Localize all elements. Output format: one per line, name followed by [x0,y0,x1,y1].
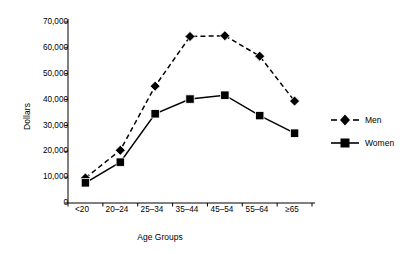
data-point-women [81,179,89,187]
legend-key-men-diamond-icon [330,113,360,127]
data-point-men [150,81,160,91]
series-line-women [85,95,294,183]
axis-lines [68,19,315,203]
data-point-women [116,158,124,166]
data-point-women [256,111,264,119]
data-point-men [115,145,125,155]
data-point-women [151,110,159,118]
data-point-men [185,31,195,41]
legend-label-men: Men [365,115,382,125]
chart-container: Dollars 70,000 60,000 50,000 40,000 30,0… [0,0,418,254]
data-point-women [290,129,298,137]
legend-label-women: Women [365,138,394,148]
legend: Men Women [330,108,418,154]
data-point-women [186,95,194,103]
legend-item-men[interactable]: Men [330,108,418,131]
legend-item-women[interactable]: Women [330,131,418,154]
data-point-women [221,91,229,99]
legend-key-women-square-icon [330,136,360,150]
data-point-men [220,31,230,41]
